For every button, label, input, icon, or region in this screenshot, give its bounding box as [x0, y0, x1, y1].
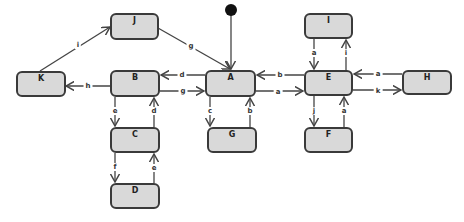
state-A: A — [205, 70, 256, 97]
state-label: H — [404, 73, 450, 82]
edge-label-E-H: k — [374, 87, 383, 95]
edge-label-E-A: b — [275, 71, 284, 79]
edge-label-H-E: a — [374, 70, 383, 78]
state-B: B — [110, 70, 160, 97]
edge-label-B-A: g — [178, 87, 187, 95]
state-label: C — [112, 130, 158, 139]
edge-label-E-I: i — [343, 49, 349, 57]
state-I: I — [304, 13, 353, 39]
edge-label-D-C: e — [150, 164, 159, 172]
state-label: I — [306, 16, 351, 25]
state-H: H — [402, 70, 452, 95]
state-C: C — [110, 127, 160, 153]
state-label: F — [306, 130, 351, 139]
edge-label-B-K: h — [84, 82, 93, 90]
state-diagram: i g d g h e d f e c b b a a i a k j a J … — [0, 0, 464, 222]
edge-label-C-D: f — [111, 163, 118, 171]
edge-label-I-E: a — [310, 49, 319, 57]
state-label: J — [112, 16, 157, 25]
edge-label-B-C: e — [111, 107, 120, 115]
state-label: A — [207, 73, 254, 82]
initial-state-dot — [225, 4, 237, 16]
edge-label-F-E: a — [340, 107, 349, 115]
state-F: F — [304, 127, 353, 153]
edge-label-E-F: j — [311, 107, 317, 115]
edge-label-J-A: g — [186, 42, 195, 50]
state-label: G — [209, 130, 255, 139]
state-label: D — [112, 186, 158, 195]
state-label: B — [112, 73, 158, 82]
state-J: J — [110, 13, 159, 40]
edge-label-G-A: b — [245, 107, 254, 115]
edge-label-C-B: d — [149, 107, 158, 115]
state-D: D — [110, 183, 160, 209]
edges-layer — [0, 0, 464, 222]
state-K: K — [16, 71, 66, 97]
state-label: E — [306, 73, 351, 82]
edge-K-J — [40, 27, 110, 71]
edge-label-A-E: a — [274, 88, 283, 96]
state-G: G — [207, 127, 257, 153]
state-label: K — [18, 74, 64, 83]
state-E: E — [304, 70, 353, 96]
edge-label-K-J: i — [75, 41, 81, 49]
edge-label-A-G: c — [206, 107, 214, 115]
edge-label-A-B: d — [177, 71, 186, 79]
